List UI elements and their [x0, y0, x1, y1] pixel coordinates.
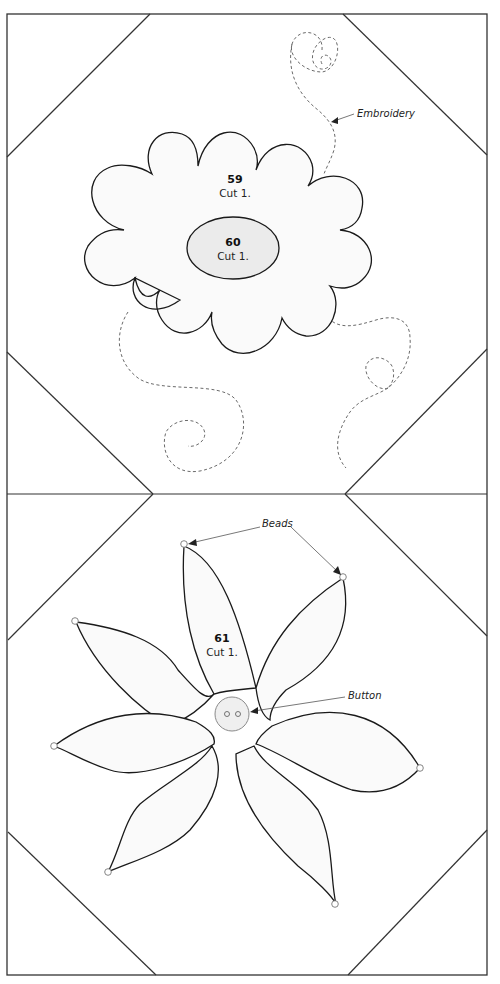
petal: [54, 714, 214, 773]
piece-instruction: Cut 1.: [217, 250, 248, 262]
piece-instruction: Cut 1.: [206, 646, 237, 658]
leader-line: [191, 527, 260, 543]
bead-icon: [105, 869, 112, 876]
bead-icon: [181, 541, 188, 548]
petal: [183, 546, 256, 694]
piece-number: 61: [214, 632, 229, 645]
button-icon: [215, 697, 249, 731]
corner-seam-bottom-right: [348, 830, 487, 975]
piece-instruction: Cut 1.: [219, 187, 250, 199]
corner-seam-top-right: [343, 14, 487, 155]
corner-seam-mid-right-upper: [345, 349, 487, 494]
callout-embroidery: Embroidery: [331, 108, 416, 124]
corner-seam-mid-left-lower: [8, 494, 153, 640]
bead-icon: [51, 743, 58, 750]
bead-icon: [417, 765, 424, 772]
corner-seam-mid-left-upper: [7, 352, 153, 494]
corner-seam-top-left: [7, 14, 150, 157]
piece-number: 59: [227, 173, 242, 186]
callout-beads: Beads: [188, 518, 341, 575]
bead-icon: [332, 901, 339, 908]
arrowhead-icon: [331, 117, 338, 124]
arrowhead-icon: [250, 707, 258, 714]
pattern-diagram: 59 Cut 1. 60 Cut 1. Embroidery: [0, 0, 500, 984]
callout-label: Beads: [262, 518, 293, 529]
bead-icon: [72, 618, 79, 625]
piece-number: 60: [225, 236, 241, 249]
leader-line: [291, 527, 339, 573]
corner-seam-mid-right-lower: [345, 494, 487, 636]
button: [215, 697, 249, 731]
arrowhead-icon: [333, 566, 341, 575]
callout-label: Embroidery: [357, 108, 416, 119]
callout-label: Button: [348, 690, 382, 701]
arrowhead-icon: [188, 539, 197, 546]
